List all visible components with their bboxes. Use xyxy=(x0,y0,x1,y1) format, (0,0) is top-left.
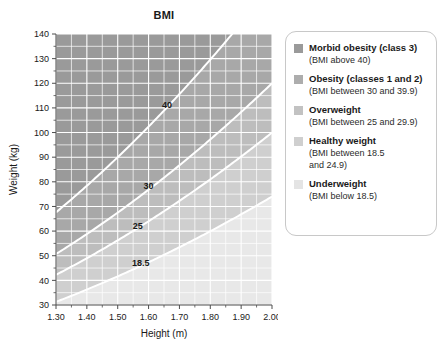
legend-text: Overweight(BMI between 25 and 29.9) xyxy=(309,104,430,128)
legend-entry-label: Underweight xyxy=(309,178,430,190)
legend-entry: Morbid obesity (class 3)(BMI above 40) xyxy=(294,42,430,66)
x-tick-label: 1.50 xyxy=(109,312,127,322)
curve-label-25: 25 xyxy=(133,221,143,231)
y-tick-label: 120 xyxy=(34,78,49,88)
legend-entry-label: Healthy weight xyxy=(309,135,430,147)
y-tick-label: 140 xyxy=(34,29,49,39)
legend-entry-description: (BMI below 18.5) xyxy=(309,190,430,202)
curve-label-18.5: 18.5 xyxy=(132,258,150,268)
legend-entry-description: (BMI between 25 and 29.9) xyxy=(309,116,430,128)
legend-description-line: (BMI between 30 and 39.9) xyxy=(309,85,430,97)
legend-entry: Overweight(BMI between 25 and 29.9) xyxy=(294,104,430,128)
curve-label-40: 40 xyxy=(162,100,172,110)
legend-description-line: (BMI between 18.5 xyxy=(309,147,430,159)
x-tick-label: 1.40 xyxy=(78,312,96,322)
chart-panel: BMI 40302518.530405060708090100110120130… xyxy=(0,0,278,355)
y-tick-label: 60 xyxy=(39,226,49,236)
curve-label-30: 30 xyxy=(144,181,154,191)
legend-entry: Healthy weight(BMI between 18.5and 24.9) xyxy=(294,135,430,171)
legend-swatch xyxy=(294,137,303,146)
y-tick-label: 80 xyxy=(39,177,49,187)
bmi-chart-figure: BMI 40302518.530405060708090100110120130… xyxy=(0,0,446,355)
legend-text: Healthy weight(BMI between 18.5and 24.9) xyxy=(309,135,430,171)
x-tick-label: 1.90 xyxy=(232,312,250,322)
legend-swatch xyxy=(294,44,303,53)
y-tick-label: 40 xyxy=(39,276,49,286)
legend-entry: Obesity (classes 1 and 2)(BMI between 30… xyxy=(294,73,430,97)
y-tick-label: 50 xyxy=(39,251,49,261)
x-tick-label: 1.30 xyxy=(47,312,65,322)
legend-list: Morbid obesity (class 3)(BMI above 40)Ob… xyxy=(294,42,430,209)
legend-entry: Underweight(BMI below 18.5) xyxy=(294,178,430,202)
y-tick-label: 90 xyxy=(39,152,49,162)
legend-swatch xyxy=(294,75,303,84)
x-tick-label: 1.80 xyxy=(202,312,220,322)
legend-entry-description: (BMI between 30 and 39.9) xyxy=(309,85,430,97)
legend-text: Obesity (classes 1 and 2)(BMI between 30… xyxy=(309,73,430,97)
y-tick-label: 70 xyxy=(39,202,49,212)
legend-swatch xyxy=(294,180,303,189)
legend-box: Morbid obesity (class 3)(BMI above 40)Ob… xyxy=(285,31,437,236)
legend-description-line: and 24.9) xyxy=(309,159,430,171)
y-tick-label: 100 xyxy=(34,128,49,138)
y-tick-label: 30 xyxy=(39,300,49,310)
legend-entry-description: (BMI above 40) xyxy=(309,54,430,66)
legend-entry-description: (BMI between 18.5and 24.9) xyxy=(309,147,430,171)
x-tick-label: 1.70 xyxy=(171,312,189,322)
y-tick-label: 110 xyxy=(35,103,49,113)
y-tick-label: 130 xyxy=(34,54,49,64)
legend-entry-label: Obesity (classes 1 and 2) xyxy=(309,73,430,85)
legend-description-line: (BMI between 25 and 29.9) xyxy=(309,116,430,128)
x-axis-title: Height (m) xyxy=(141,328,188,339)
legend-description-line: (BMI above 40) xyxy=(309,54,430,66)
x-tick-label: 1.60 xyxy=(140,312,158,322)
legend-text: Morbid obesity (class 3)(BMI above 40) xyxy=(309,42,430,66)
y-axis-title: Weight (kg) xyxy=(8,144,19,195)
legend-entry-label: Morbid obesity (class 3) xyxy=(309,42,430,54)
legend-swatch xyxy=(294,106,303,115)
legend-text: Underweight(BMI below 18.5) xyxy=(309,178,430,202)
bmi-plot: 40302518.5304050607080901001101201301401… xyxy=(0,0,278,355)
x-tick-label: 2.00 xyxy=(263,312,278,322)
legend-description-line: (BMI below 18.5) xyxy=(309,190,430,202)
legend-entry-label: Overweight xyxy=(309,104,430,116)
